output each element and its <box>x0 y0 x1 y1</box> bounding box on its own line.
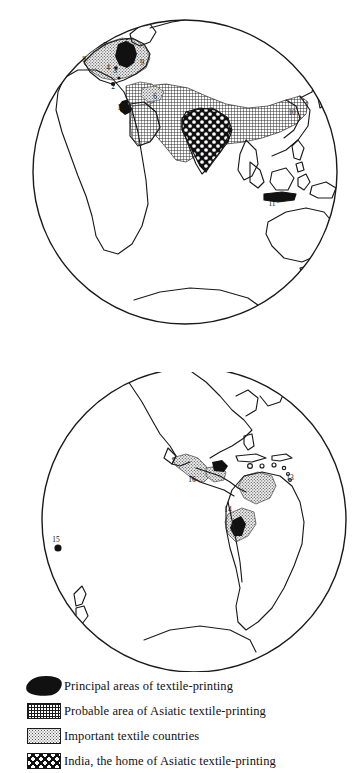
marker-7: 7 <box>103 41 107 50</box>
marker-14: 14 <box>224 505 232 514</box>
legend-swatch-cell <box>0 724 64 749</box>
figure-page: 1 2 3 4 5 6 7 8 9 10 11 12 <box>0 0 364 773</box>
legend-entry-india: India, the home of Asiatic textile-print… <box>0 749 364 773</box>
legend-swatch-cell <box>0 674 64 699</box>
bold-checker-icon <box>27 753 61 769</box>
marker-10: 10 <box>288 108 296 117</box>
marker-16: 16 <box>188 475 196 484</box>
legend-entry-probable-area: Probable area of Asiatic textile-printin… <box>0 699 364 724</box>
marker-2: 2 <box>111 82 115 91</box>
marker-3: 3 <box>113 66 117 75</box>
marker-8: 8 <box>82 55 86 64</box>
legend-label: Probable area of Asiatic textile-printin… <box>64 704 266 719</box>
western-hemisphere-globe: 13 14 15 16 <box>0 372 364 672</box>
legend-label: India, the home of Asiatic textile-print… <box>64 754 276 769</box>
light-stipple-icon <box>27 728 61 744</box>
marker-5: 5 <box>125 38 129 47</box>
region-dot-aegean <box>117 76 120 79</box>
marker-9: 9 <box>140 58 144 67</box>
legend-swatch-cell <box>0 699 64 724</box>
marker-11: 11 <box>268 199 275 208</box>
solid-black-blob-icon <box>25 674 63 698</box>
fine-grid-hatch-icon <box>27 703 61 719</box>
map-legend: Principal areas of textile-printing Prob… <box>0 672 364 773</box>
eastern-hemisphere-globe: 1 2 3 4 5 6 7 8 9 10 11 12 <box>0 0 364 345</box>
marker-13: 13 <box>286 473 294 482</box>
legend-swatch-cell <box>0 749 64 773</box>
legend-label: Important textile countries <box>64 729 199 744</box>
legend-label: Principal areas of textile-printing <box>64 679 233 694</box>
marker-4: 4 <box>106 63 110 72</box>
legend-entry-principal-areas: Principal areas of textile-printing <box>0 674 364 699</box>
marker-1: 1 <box>117 103 121 112</box>
marker-15: 15 <box>52 535 60 544</box>
legend-entry-important-countries: Important textile countries <box>0 724 364 749</box>
marker-6: 6 <box>153 92 157 101</box>
easter-island-dot <box>55 545 61 551</box>
globe-outline-north <box>33 20 337 324</box>
marker-12: 12 <box>198 150 206 159</box>
